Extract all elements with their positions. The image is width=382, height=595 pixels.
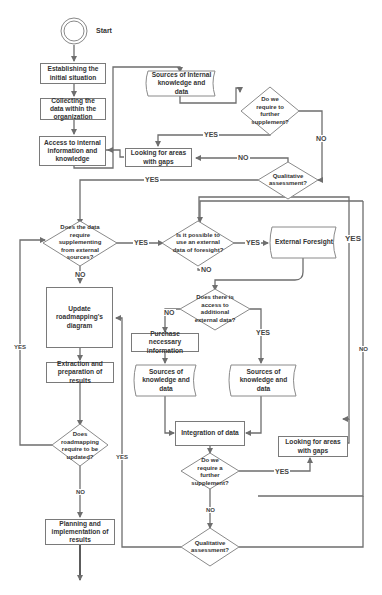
label-no-qual1: NO	[237, 154, 250, 161]
label-no-access-additional: NO	[163, 309, 176, 316]
decision-req-further-2: Do we require a further supplement?	[181, 459, 239, 485]
label-no-req2: NO	[205, 507, 216, 513]
process-purchase: Purchase necessary information	[131, 333, 199, 352]
decision-qual-1: Qualitative assessment?	[258, 170, 318, 190]
process-update-roadmap: Update roadmapping's diagram	[46, 287, 113, 348]
decision-qual-2: Qualitative assessment?	[181, 537, 239, 557]
label-no-right-loop: NO	[358, 346, 369, 352]
process-looking-gaps-1: Looking for areas with gaps	[125, 148, 192, 167]
document-sources-internal: Sources of Internal knowledge and data	[148, 71, 215, 96]
label-no-roadmap: NO	[75, 489, 86, 495]
process-integration: Integration of data	[175, 421, 245, 446]
decision-req-further-1: Do we require to further supplement?	[241, 95, 299, 127]
decision-data-supplement: Does the data require supplementing from…	[43, 230, 117, 256]
label-yes-roadmap-loop: YES	[13, 344, 27, 350]
label-yes-qual2-loop: YES	[115, 454, 129, 460]
decision-roadmap-update: Does roadmapping require to be updated?	[52, 433, 108, 459]
decision-access-additional: Does there is access to additional exter…	[180, 297, 250, 321]
label-yes-qual1: YES	[144, 176, 160, 183]
label-no-ext-foresight: NO	[200, 266, 213, 273]
decision-ext-foresight-q: Is it possible to use an external data o…	[162, 230, 234, 256]
label-yes-ext-foresight: YES	[245, 239, 261, 246]
process-looking-gaps-2: Looking for areas with gaps	[278, 436, 348, 457]
process-access-internal: Access to internal information and knowl…	[39, 136, 106, 166]
process-establish: Establishing the initial situation	[40, 63, 106, 84]
label-no-req1: NO	[315, 135, 328, 142]
document-sources-left: Sources of knowledge and data	[136, 365, 196, 396]
document-external-foresight: External Foresight	[272, 227, 336, 258]
start-label: Start	[96, 27, 112, 34]
label-yes-req1: YES	[203, 131, 219, 138]
process-extraction: Extraction and preparation of results	[46, 362, 114, 383]
process-collect: Collecting the data within the organizat…	[40, 98, 106, 120]
document-sources-right: Sources of knowledge and data	[231, 365, 296, 396]
process-planning: Planning and implementation of results	[45, 519, 115, 545]
label-yes-req2: YES	[274, 468, 290, 475]
flowchart-canvas: Start Establishing the initial situation…	[0, 0, 382, 595]
label-yes-right-loop: YES	[344, 235, 362, 243]
label-yes-data-supplement: YES	[133, 239, 149, 246]
label-no-data-supplement: NO	[74, 271, 87, 278]
label-yes-access-additional: YES	[255, 329, 271, 336]
